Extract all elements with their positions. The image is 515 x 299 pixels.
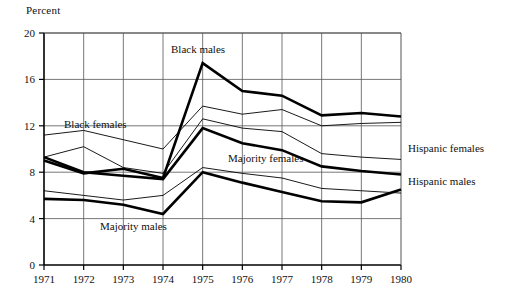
- series-label: Black females: [64, 118, 127, 130]
- chart-figure: Percent 048121620 1971197219731974197519…: [0, 0, 515, 299]
- series-label: Majority females: [228, 152, 303, 164]
- series-label: Black males: [171, 43, 225, 55]
- y-tick-label: 0: [30, 259, 36, 271]
- series-label: Hispanic females: [408, 142, 484, 154]
- y-tick-label: 16: [24, 73, 36, 85]
- x-tick-label: 1977: [271, 273, 294, 285]
- gridlines-group: [44, 33, 401, 265]
- y-tick-label: 4: [30, 213, 36, 225]
- series-line: [44, 172, 401, 214]
- x-tick-label: 1972: [73, 273, 95, 285]
- series-label: Majority males: [100, 220, 167, 232]
- y-tick-label: 20: [24, 27, 36, 39]
- x-tick-label: 1975: [192, 273, 215, 285]
- y-tick-label: 8: [30, 166, 36, 178]
- x-tick-label: 1978: [311, 273, 334, 285]
- series-lines-group: [44, 63, 401, 214]
- x-tick-label: 1974: [152, 273, 175, 285]
- line-chart-svg: 048121620 197119721973197419751976197719…: [0, 0, 515, 299]
- y-tick-labels: 048121620: [24, 27, 36, 271]
- x-tick-label: 1976: [231, 273, 254, 285]
- x-tick-label: 1973: [112, 273, 135, 285]
- axes-group: [44, 33, 401, 265]
- plot-area: 048121620 197119721973197419751976197719…: [0, 0, 515, 299]
- x-tick-label: 1979: [350, 273, 373, 285]
- x-tick-label: 1980: [390, 273, 413, 285]
- series-label: Hispanic males: [408, 175, 476, 187]
- x-tick-labels: 1971197219731974197519761977197819791980: [33, 273, 413, 285]
- y-tick-label: 12: [24, 120, 35, 132]
- x-tick-label: 1971: [33, 273, 55, 285]
- series-annotations-group: Black malesBlack femalesMajority females…: [64, 43, 484, 232]
